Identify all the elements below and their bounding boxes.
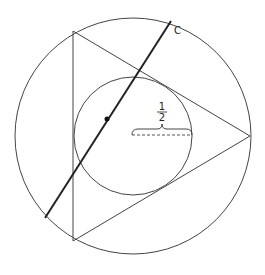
equilateral-triangle [73, 31, 250, 241]
radius-brace [132, 124, 192, 135]
fraction-denominator: 2 [159, 112, 165, 123]
inner-circle [74, 77, 192, 195]
fraction-numerator: 1 [159, 101, 165, 112]
point-on-line-c [105, 117, 110, 122]
outer-circle [15, 18, 251, 254]
geometry-diagram: C 1 2 [0, 0, 265, 275]
line-c-label: C [174, 25, 181, 36]
